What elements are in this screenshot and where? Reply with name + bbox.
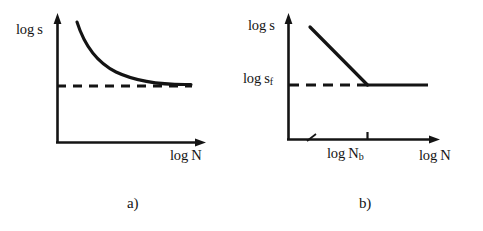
panel-b-log-nb-label-subscript: b [359, 151, 364, 162]
panel-a: log s log N a) [0, 0, 242, 231]
panel-a-caption: a) [127, 196, 138, 211]
panel-b-y-axis [285, 13, 293, 140]
panel-b-y-axis-label: log s [248, 18, 275, 33]
panel-b-fatigue-limit-label: log sf [243, 71, 273, 87]
panel-b-log-nb-label: log Nb [327, 146, 364, 162]
panel-a-decay-curve [77, 22, 191, 85]
figure-root: log s log N a) [0, 0, 483, 231]
panel-b-caption: b) [359, 196, 371, 211]
panel-b-fatigue-limit-label-base: log s [243, 70, 270, 86]
panel-a-y-axis-label: log s [16, 22, 43, 37]
panel-b: log s log sf log Nb log N b) [241, 0, 483, 231]
panel-b-fatigue-limit-label-subscript: f [270, 76, 273, 87]
panel-b-log-nb-label-base: log N [327, 145, 359, 161]
panel-b-x-axis-label: log N [419, 148, 451, 163]
panel-b-sloped-line [310, 27, 368, 85]
panel-a-y-axis [54, 13, 62, 143]
panel-a-x-axis [56, 138, 206, 146]
panel-a-x-axis-label: log N [170, 148, 202, 163]
